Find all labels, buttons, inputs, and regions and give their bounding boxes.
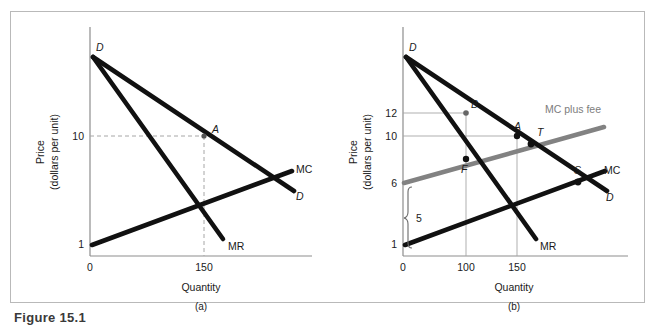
panel-b-caption: (b) [508,301,520,312]
panel-b-point-a-marker [514,133,520,139]
panel-a-marginal-cost-curve [92,171,292,245]
panel-a-point-a-marker [201,133,206,138]
panel-b-marginal-revenue-curve [406,57,536,239]
panel-b-point-b-marker [463,110,469,116]
panel-b-label-point-s: S [574,164,581,176]
panel-b-xtick-0: 0 [400,261,406,273]
panel-a-marginal-revenue-curve [93,57,223,239]
panel-b-y-axis-title-line2: (dollars per unit) [361,114,373,190]
panel-a-x-axis-title: Quantity [181,281,221,293]
panel-a-y-axis-title-line2: (dollars per unit) [48,114,60,190]
panel-a-xtick-150: 150 [195,261,213,273]
panel-b-point-s-marker [575,179,582,186]
panel-a-caption: (a) [195,301,207,312]
panel-a-label-mc: MC [296,163,313,175]
panel-b-label-point-f: F [461,163,468,175]
panel-b-label-point-t: T [537,126,545,138]
panel-b-label-mr: MR [540,240,557,252]
panel-b-brace-label: 5 [416,212,422,224]
panel-b-point-t-marker [528,141,535,148]
panel-b-ytick-1: 1 [391,238,397,250]
panel-b: 5 12 10 6 1 0 100 150 D D MC MR MC plus … [347,27,628,312]
panel-b-y-axis-title-line1: Price [347,140,359,164]
panel-a-label-mr: MR [228,240,245,252]
panel-a-y-axis-title-line1: Price [34,140,46,164]
panel-a-label-d-top: D [96,41,104,53]
figure-root: 10 1 0 150 D D MC MR A Quantity Price (d… [0,0,656,329]
panel-b-label-point-a: A [513,120,521,132]
panel-a-ytick-10: 10 [72,130,84,142]
panel-b-ytick-10: 10 [385,130,397,142]
panel-b-xtick-150: 150 [508,261,526,273]
panel-a-xtick-0: 0 [87,261,93,273]
panel-a: 10 1 0 150 D D MC MR A Quantity Price (d… [34,27,313,312]
panel-a-label-d-end: D [296,190,304,202]
panel-b-label-d-end: D [606,191,614,203]
panel-b-brace [404,187,412,248]
panel-b-label-mc-plus-fee: MC plus fee [545,103,601,115]
panel-b-ytick-12: 12 [385,107,397,119]
figure-canvas: 10 1 0 150 D D MC MR A Quantity Price (d… [0,0,656,329]
panel-b-point-f-marker [463,156,469,162]
panel-b-x-axis-title: Quantity [494,281,534,293]
panel-a-ytick-1: 1 [78,238,84,250]
panel-b-ytick-6: 6 [391,177,397,189]
panel-b-label-point-b: B [471,98,478,110]
figure-caption: Figure 15.1 [14,310,86,328]
panel-b-xtick-100: 100 [457,261,475,273]
panel-a-demand-curve [93,57,294,191]
panel-a-label-point-a: A [211,123,219,135]
panel-b-label-d-top: D [409,41,417,53]
panel-b-label-mc: MC [604,164,621,176]
